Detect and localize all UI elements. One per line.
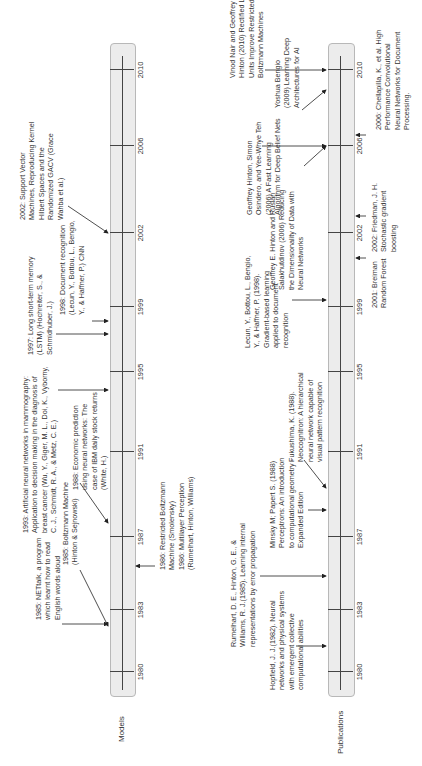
pub-note-2006-hinton-osindero-teh: Geoffrey Hinton, Simon Osindero, and Yee… <box>245 118 283 215</box>
model-note-1997-lstm: 1997: Long short-term memory (LSTM) (Hoc… <box>26 256 54 355</box>
model-note-1986-rbm-mlp: 1986: Restricted Boltzmann Machine (Smol… <box>158 477 196 570</box>
pub-note-1982-hopfield: Hopfield, J. J.(1982). Neural networks a… <box>268 591 306 690</box>
timeline-diagram: Models Publications 1980 1983 1987 1991 … <box>0 0 422 766</box>
pub-note-2010-nair-hinton: Vinod Nair and Geoffrey E. Hinton (2010)… <box>228 0 266 78</box>
pub-note-2002-friedman: 2002: Friedman, J. H. Stochastic gradien… <box>370 183 398 252</box>
model-note-1988-economic: 1988: Economic prediction using neural n… <box>71 392 109 490</box>
pub-note-2009-bengio: Yoshua Bengio (2009) Learning Deep Archi… <box>273 38 301 108</box>
model-note-1993-mammography: 1993: Artificial neural networks in mamm… <box>21 366 59 533</box>
model-note-1985-boltzmann: 1985: Boltzmann Machine (Hinton & Sejnow… <box>61 482 80 565</box>
pub-note-1988-minsky: Minsky M; Papert S. (1988) Perceptrons: … <box>268 458 306 548</box>
pub-note-1988-fukushima: Fukushima, K. (1988). Neocognitron: A hi… <box>287 373 325 463</box>
pub-note-2001-breiman: 2001: Breiman Random Forest <box>370 258 389 308</box>
model-note-1985-nettalk: 1985: NETtalk, a program which learnt ho… <box>34 538 62 620</box>
pub-note-2006-chellapilla: 2006: Chellapilla, K., et al. High Perfo… <box>374 30 412 130</box>
model-note-1998-cnn: 1998: Document recognition (Lecun, Y., B… <box>58 220 86 315</box>
pub-note-1985-rumelhart: Rumelhart, D. E., Hinton, G. E., & Willi… <box>229 523 257 647</box>
model-note-2002-svm: 2002: Support Vector Machines, Reproduci… <box>18 122 65 220</box>
connector-arrows <box>0 0 422 766</box>
